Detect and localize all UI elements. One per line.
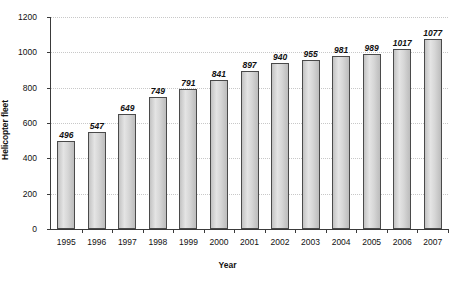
bar-value-label: 496 — [59, 130, 73, 140]
x-axis-tick-label: 2005 — [362, 237, 381, 247]
bar: 649 — [118, 114, 136, 229]
gridline — [51, 17, 448, 18]
bar: 547 — [88, 132, 106, 229]
bar-value-label: 791 — [181, 78, 195, 88]
bar: 981 — [332, 56, 350, 229]
y-axis-tick-label: 400 — [23, 153, 37, 163]
bar: 897 — [241, 71, 259, 229]
bar-value-label: 981 — [334, 45, 348, 55]
gridline — [51, 52, 448, 53]
x-axis-tick — [82, 229, 83, 233]
x-axis-tick-label: 2006 — [393, 237, 412, 247]
bar: 955 — [302, 60, 320, 229]
x-axis-tick — [143, 229, 144, 233]
y-axis-tick-label: 200 — [23, 189, 37, 199]
x-axis-tick-label: 1995 — [57, 237, 76, 247]
bar-value-label: 749 — [151, 86, 165, 96]
bar-value-label: 955 — [303, 49, 317, 59]
bar: 989 — [363, 54, 381, 229]
y-axis-tick — [47, 194, 51, 195]
bar: 841 — [210, 80, 228, 229]
x-axis-tick-label: 1998 — [148, 237, 167, 247]
bar-value-label: 841 — [212, 69, 226, 79]
x-axis-tick-label: 2003 — [301, 237, 320, 247]
x-axis-tick — [417, 229, 418, 233]
y-axis-tick-label: 800 — [23, 83, 37, 93]
x-axis-tick — [387, 229, 388, 233]
x-axis-tick-label: 1996 — [87, 237, 106, 247]
bar-value-label: 649 — [120, 103, 134, 113]
bar-value-label: 1077 — [423, 28, 442, 38]
y-axis-tick — [47, 52, 51, 53]
x-axis-tick — [356, 229, 357, 233]
bar-value-label: 1017 — [393, 38, 412, 48]
helicopter-fleet-bar-chart: Helicopter fleet 02004006008001000120049… — [0, 0, 455, 281]
x-axis-tick — [173, 229, 174, 233]
x-axis-tick-label: 2001 — [240, 237, 259, 247]
y-axis-tick — [47, 17, 51, 18]
y-axis-tick — [47, 88, 51, 89]
x-axis-title: Year — [0, 260, 455, 270]
y-axis-tick-label: 1000 — [18, 47, 37, 57]
y-axis-title: Helicopter fleet — [0, 75, 14, 185]
bar-value-label: 989 — [365, 43, 379, 53]
x-axis-tick-label: 2000 — [209, 237, 228, 247]
y-axis-tick-label: 0 — [32, 224, 37, 234]
bar: 791 — [179, 89, 197, 229]
bar-value-label: 897 — [242, 60, 256, 70]
x-axis-tick — [448, 229, 449, 233]
y-axis-tick — [47, 229, 51, 230]
x-axis-tick-label: 2004 — [332, 237, 351, 247]
plot-area: 0200400600800100012004961995547199664919… — [50, 17, 448, 230]
y-axis-tick-label: 1200 — [18, 12, 37, 22]
bar: 496 — [57, 141, 75, 229]
x-axis-tick — [265, 229, 266, 233]
x-axis-tick — [112, 229, 113, 233]
x-axis-tick-label: 1999 — [179, 237, 198, 247]
bar: 940 — [271, 63, 289, 229]
x-axis-tick-label: 2002 — [271, 237, 290, 247]
y-axis-tick — [47, 123, 51, 124]
x-axis-tick — [204, 229, 205, 233]
x-axis-tick-label: 1997 — [118, 237, 137, 247]
x-axis-tick-label: 2007 — [423, 237, 442, 247]
y-axis-tick-label: 600 — [23, 118, 37, 128]
bar-value-label: 547 — [90, 121, 104, 131]
bar: 749 — [149, 97, 167, 229]
bar: 1077 — [424, 39, 442, 229]
x-axis-tick — [295, 229, 296, 233]
x-axis-tick — [234, 229, 235, 233]
bar: 1017 — [393, 49, 411, 229]
x-axis-tick — [326, 229, 327, 233]
y-axis-tick — [47, 158, 51, 159]
bar-value-label: 940 — [273, 52, 287, 62]
